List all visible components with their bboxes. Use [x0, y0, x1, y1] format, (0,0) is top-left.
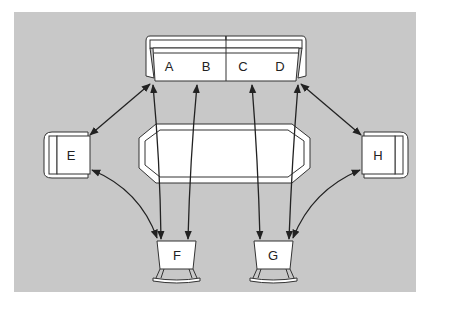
- armchair-h: H: [362, 132, 408, 178]
- seat-label-b: B: [202, 59, 211, 74]
- sofa: A B C D: [146, 36, 306, 81]
- armchair-e: E: [44, 132, 90, 178]
- seating-diagram: A B C D E H F G: [0, 0, 452, 322]
- armchair-label-h: H: [373, 148, 382, 163]
- seat-label-d: D: [275, 59, 284, 74]
- coffee-table: [139, 124, 310, 183]
- seat-label-c: C: [238, 59, 247, 74]
- seat-label-a: A: [165, 59, 174, 74]
- chair-label-g: G: [268, 248, 278, 263]
- chair-label-f: F: [173, 248, 181, 263]
- armchair-label-e: E: [67, 148, 76, 163]
